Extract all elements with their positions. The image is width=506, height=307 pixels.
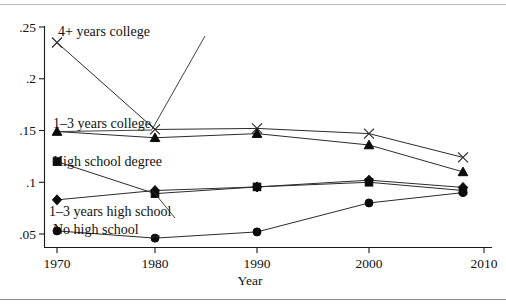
y-axis-tick-label: .05: [19, 227, 36, 242]
x-axis-title: Year: [238, 273, 263, 288]
label-leader-line: [152, 36, 205, 130]
x-axis-tick-labels: 19701980199020002010: [44, 256, 498, 271]
y-axis-tick-label: .1: [26, 175, 36, 190]
data-point-triangle-marker: [252, 129, 262, 138]
y-axis-tick-label: .2: [26, 71, 36, 86]
y-axis-tick-label: .15: [19, 123, 36, 138]
x-axis-tick-label: 2000: [356, 256, 383, 271]
x-axis-tick-label: 1980: [142, 256, 169, 271]
line-chart: .05.1.15.2.25 19701980199020002010 4+ ye…: [0, 0, 506, 307]
data-point-x-marker: [458, 152, 468, 162]
x-axis-ticks: [57, 248, 484, 254]
series-label-square: High school degree: [53, 154, 162, 169]
series-line: [57, 43, 463, 158]
series-label-diamond: 1–3 years high school: [49, 204, 172, 219]
series-label-x: 4+ years college: [58, 24, 150, 39]
data-point-x-marker: [52, 38, 62, 48]
x-axis-tick-label: 1970: [44, 256, 71, 271]
figure-container: .05.1.15.2.25 19701980199020002010 4+ ye…: [0, 0, 506, 307]
y-axis-tick-label: .25: [19, 20, 36, 35]
series-label-triangle: 1–3 years college: [53, 116, 151, 131]
data-point-circle-marker: [365, 199, 373, 207]
x-axis-tick-label: 1990: [244, 256, 271, 271]
data-point-circle-marker: [151, 234, 159, 242]
data-point-circle-marker: [459, 189, 467, 197]
series-label-circle: No high school: [53, 222, 139, 237]
y-axis-tick-labels: .05.1.15.2.25: [19, 20, 36, 242]
data-point-circle-marker: [253, 228, 261, 236]
y-axis-ticks: [39, 27, 45, 234]
x-axis-tick-label: 2010: [471, 256, 498, 271]
